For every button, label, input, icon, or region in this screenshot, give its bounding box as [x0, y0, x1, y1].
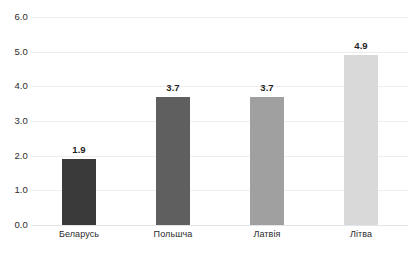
x-axis-tick: Латвія: [220, 228, 314, 240]
y-axis-tick-label: 0.0: [2, 220, 28, 230]
bar-value-label: 3.7: [166, 83, 180, 93]
bar-value-label: 4.9: [354, 41, 368, 51]
bar-chart: 6.05.04.03.02.01.00.0 1.93.73.74.9 Белар…: [0, 0, 416, 253]
x-axis-tick: Польшча: [126, 228, 220, 240]
bar[interactable]: [62, 159, 96, 225]
bar-value-label: 1.9: [72, 145, 86, 155]
x-axis-tick: Беларусь: [32, 228, 126, 240]
y-axis-tick-label: 1.0: [2, 185, 28, 195]
bar[interactable]: [156, 97, 190, 225]
y-axis-tick-label: 5.0: [2, 47, 28, 57]
bar-group: 3.7: [220, 17, 314, 225]
bar[interactable]: [344, 55, 378, 225]
y-axis-tick-label: 6.0: [2, 12, 28, 22]
x-axis-tick-label: Беларусь: [32, 228, 126, 240]
y-axis-tick-label: 2.0: [2, 151, 28, 161]
y-axis: 6.05.04.03.02.01.00.0: [0, 17, 28, 225]
bar-group: 4.9: [314, 17, 408, 225]
bar-group: 3.7: [126, 17, 220, 225]
bar-value-label: 3.7: [260, 83, 274, 93]
axis-baseline: [32, 225, 408, 226]
x-axis-tick-label: Літва: [314, 228, 408, 240]
x-axis: БеларусьПольшчаЛатвіяЛітва: [32, 228, 408, 244]
bar-group: 1.9: [32, 17, 126, 225]
y-axis-tick-label: 3.0: [2, 116, 28, 126]
x-axis-tick-label: Латвія: [220, 228, 314, 240]
bar[interactable]: [250, 97, 284, 225]
x-axis-tick-label: Польшча: [126, 228, 220, 240]
x-axis-tick: Літва: [314, 228, 408, 240]
y-axis-tick-label: 4.0: [2, 81, 28, 91]
plot-area: 1.93.73.74.9: [32, 17, 408, 225]
